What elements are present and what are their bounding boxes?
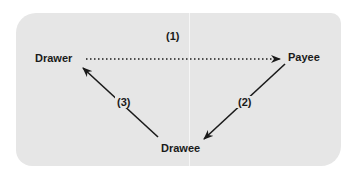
edge-3-label: (3) bbox=[115, 96, 132, 108]
edge-1-label: (1) bbox=[166, 30, 179, 42]
edge-2-label: (2) bbox=[236, 96, 253, 108]
node-drawer: Drawer bbox=[35, 52, 72, 64]
node-payee: Payee bbox=[288, 51, 320, 63]
node-drawee: Drawee bbox=[161, 142, 200, 154]
